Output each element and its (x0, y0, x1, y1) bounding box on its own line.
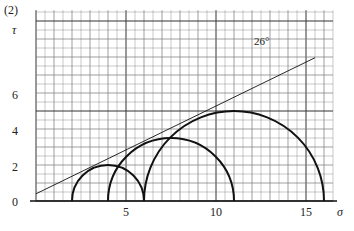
x-tick-10: 10 (210, 205, 222, 219)
x-tick-15: 15 (300, 205, 312, 219)
x-tick-5: 5 (123, 205, 129, 219)
y-tick-6: 6 (12, 88, 18, 102)
x-axis-label: σ (337, 205, 344, 219)
y-axis-label: τ (12, 23, 17, 37)
y-tick-0: 0 (12, 195, 18, 209)
grid (30, 10, 337, 201)
mohr-circle-chart: (2) τ 6 4 2 0 5 10 15 σ 26° (0, 0, 354, 231)
angle-annotation: 26° (254, 35, 269, 47)
figure-label: (2) (4, 3, 18, 17)
y-tick-4: 4 (12, 124, 18, 138)
y-tick-2: 2 (12, 160, 18, 174)
